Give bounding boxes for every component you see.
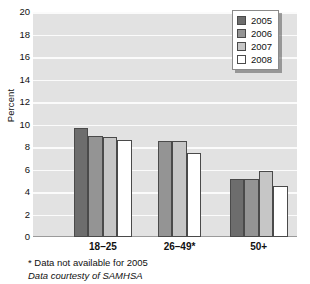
y-axis-tick-labels: 20181614121086420 <box>12 12 30 237</box>
y-axis-tick-4: 4 <box>12 187 30 197</box>
y-axis-tick-14: 14 <box>12 75 30 85</box>
y-axis-tick-12: 12 <box>12 97 30 107</box>
legend-swatch-icon-2006 <box>237 29 246 38</box>
legend-item-2008[interactable]: 2008 <box>237 53 272 66</box>
legend[interactable]: 2005200620072008 <box>232 10 279 70</box>
x-axis-tick-0: 18–25 <box>89 241 117 252</box>
bar-chart-figure: Percent 20181614121086420 18–2526–49*50+… <box>0 0 310 284</box>
legend-swatch-icon-2008 <box>237 55 246 64</box>
bar-2008-50+ <box>273 186 288 237</box>
legend-label-2005: 2005 <box>251 16 272 26</box>
footnote-asterisk: * Data not available for 2005 <box>28 256 298 269</box>
y-axis-tick-10: 10 <box>12 120 30 130</box>
y-axis-tick-2: 2 <box>12 210 30 220</box>
legend-item-2005[interactable]: 2005 <box>237 14 272 27</box>
y-axis-tick-6: 6 <box>12 165 30 175</box>
legend-label-2006: 2006 <box>251 29 272 39</box>
y-axis-tick-8: 8 <box>12 142 30 152</box>
legend-swatch-icon-2007 <box>237 42 246 51</box>
y-axis-tick-20: 20 <box>12 7 30 17</box>
bar-2006-50+ <box>244 179 259 237</box>
chart-footnotes: * Data not available for 2005 Data court… <box>28 256 298 282</box>
bar-2007-50+ <box>259 171 274 237</box>
y-axis-tick-18: 18 <box>12 30 30 40</box>
x-axis-tick-labels: 18–2526–49*50+ <box>33 241 297 257</box>
legend-label-2007: 2007 <box>251 42 272 52</box>
legend-label-2008: 2008 <box>251 55 272 65</box>
y-axis-tick-16: 16 <box>12 52 30 62</box>
x-axis-tick-1: 26–49* <box>164 241 196 252</box>
legend-swatch-icon-2005 <box>237 16 246 25</box>
y-axis-tick-0: 0 <box>12 232 30 242</box>
x-axis-tick-2: 50+ <box>250 241 267 252</box>
bar-2005-50+ <box>230 179 245 237</box>
legend-item-2007[interactable]: 2007 <box>237 40 272 53</box>
footnote-source: Data courtesty of SAMHSA <box>28 269 298 282</box>
legend-item-2006[interactable]: 2006 <box>237 27 272 40</box>
